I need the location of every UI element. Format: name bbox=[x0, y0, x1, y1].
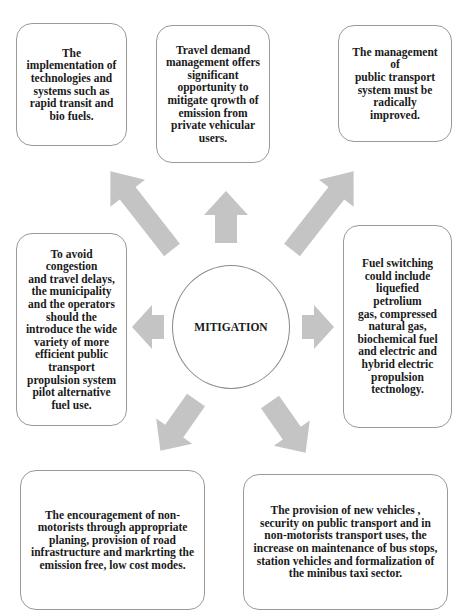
box-bottom-left: The encouragement of non- motorists thro… bbox=[20, 470, 205, 610]
box-middle-left: To avoid congestion and travel delays, t… bbox=[16, 233, 127, 426]
box-top-center: Travel demand management offers signific… bbox=[156, 25, 270, 163]
center-label: MITIGATION bbox=[194, 321, 267, 333]
box-text: Travel demand management offers signific… bbox=[166, 44, 260, 145]
center-circle: MITIGATION bbox=[172, 265, 290, 389]
box-text: To avoid congestion and travel delays, t… bbox=[25, 248, 118, 412]
arrow-down-left-icon bbox=[142, 387, 214, 463]
arrow-left-icon bbox=[132, 305, 164, 349]
arrow-down-right-icon bbox=[252, 389, 324, 465]
box-top-right: The management of public transport syste… bbox=[338, 25, 452, 142]
box-text: The provision of new vehicles , security… bbox=[254, 504, 438, 580]
box-text: The implementation of technologies and s… bbox=[27, 47, 117, 123]
arrow-right-icon bbox=[302, 305, 334, 349]
box-text: Fuel switching could include liquefied p… bbox=[352, 257, 443, 396]
box-top-left: The implementation of technologies and s… bbox=[16, 23, 127, 146]
box-bottom-right: The provision of new vehicles , security… bbox=[243, 474, 448, 610]
arrow-up-icon bbox=[204, 191, 248, 243]
box-text: The encouragement of non- motorists thro… bbox=[31, 509, 194, 572]
box-middle-right: Fuel switching could include liquefied p… bbox=[343, 225, 452, 428]
box-text: The management of public transport syste… bbox=[347, 46, 443, 122]
